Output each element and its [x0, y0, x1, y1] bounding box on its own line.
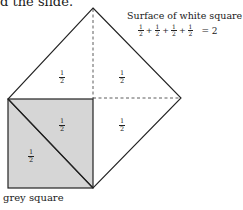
grey-square-caption: grey square — [3, 192, 64, 203]
fraction-term: 1 2 — [188, 24, 194, 37]
fraction-denominator: 2 — [60, 126, 64, 133]
region-label-grey-upper: 1 2 — [59, 118, 65, 132]
plus-operator: + — [162, 26, 169, 35]
fraction-denominator: 2 — [139, 31, 143, 37]
fraction-term: 1 2 — [155, 24, 161, 37]
fraction-denominator: 2 — [120, 78, 124, 85]
fraction-term: 1 2 — [138, 24, 144, 37]
fraction-denominator: 2 — [29, 157, 33, 164]
fraction-term: 1 2 — [171, 24, 177, 37]
fraction-denominator: 2 — [189, 31, 193, 37]
plus-operator: + — [146, 26, 153, 35]
fraction-denominator: 2 — [172, 31, 176, 37]
region-label-white-lower-right: 1 2 — [119, 118, 125, 132]
plus-operator: + — [179, 26, 186, 35]
white-square-caption: Surface of white square — [127, 10, 242, 21]
equation-result: = 2 — [201, 26, 217, 36]
fraction-denominator: 2 — [156, 31, 160, 37]
region-label-white-upper-left: 1 2 — [59, 70, 65, 84]
region-label-grey-lower: 1 2 — [28, 149, 34, 163]
region-label-white-upper-right: 1 2 — [119, 70, 125, 84]
fraction-denominator: 2 — [120, 126, 124, 133]
area-equation: 1 2 + 1 2 + 1 2 + 1 2 = 2 — [138, 24, 218, 37]
fraction-denominator: 2 — [60, 78, 64, 85]
